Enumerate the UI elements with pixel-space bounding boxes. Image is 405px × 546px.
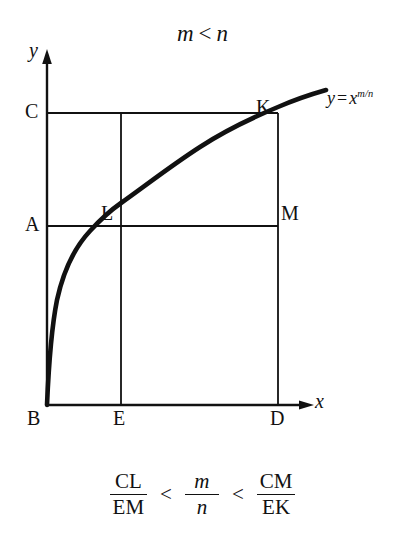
fraction-m-n-numerator: m — [191, 470, 212, 494]
fraction-cm-ek-denominator: EK — [259, 495, 293, 519]
fraction-cm-ek: CM EK — [257, 470, 296, 519]
curve-equation-label: y=xm/n — [327, 89, 373, 107]
y-axis-label: y — [29, 40, 38, 60]
point-label-m: M — [281, 203, 299, 223]
point-label-b: B — [27, 408, 40, 428]
power-function-diagram: m<n y x C A B E D K L M y=xm/n CL — [0, 0, 405, 546]
fraction-m-n: m n — [185, 470, 219, 519]
curve-label-y: y — [327, 88, 335, 108]
point-label-d: D — [270, 408, 284, 428]
point-label-k: K — [256, 97, 270, 117]
diagram-linework — [0, 0, 405, 546]
fraction-cl-em-numerator: CL — [112, 470, 145, 494]
fraction-cl-em: CL EM — [110, 470, 148, 519]
point-label-l: L — [101, 203, 113, 223]
fraction-m-n-denominator: n — [194, 495, 211, 519]
curve-label-exponent: m/n — [357, 88, 373, 99]
inequality-operator-1: < — [160, 482, 172, 507]
inequality-formula: CL EM < m n < CM EK — [0, 470, 405, 519]
curve-label-equals: = — [335, 88, 349, 108]
y-axis-arrowhead — [42, 49, 52, 64]
power-curve — [47, 90, 326, 405]
inequality-operator-2: < — [232, 482, 244, 507]
fraction-cm-ek-numerator: CM — [257, 470, 296, 494]
point-label-c: C — [25, 101, 38, 121]
point-label-a: A — [25, 214, 39, 234]
x-axis-arrowhead — [299, 400, 314, 409]
curve-label-x: x — [349, 88, 357, 108]
point-label-e: E — [113, 408, 125, 428]
fraction-cl-em-denominator: EM — [110, 495, 148, 519]
x-axis-label: x — [315, 391, 324, 411]
